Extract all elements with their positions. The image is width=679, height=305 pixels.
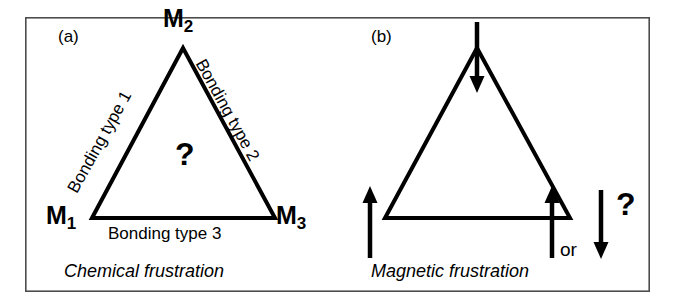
vertex-label-m1-main: M	[46, 201, 66, 229]
vertex-label-m3-sub: 3	[297, 214, 306, 233]
figure-frame	[26, 18, 649, 291]
panel-b-question-mark: ?	[616, 188, 636, 220]
vertex-label-m2-main: M	[163, 4, 183, 32]
panel-b-tag: (b)	[371, 28, 392, 45]
vertex-label-m1: M1	[46, 203, 75, 228]
panel-b-or-label: or	[560, 240, 577, 259]
vertex-label-m1-sub: 1	[67, 214, 76, 233]
panel-a-question-mark: ?	[175, 138, 195, 170]
vertex-label-m3-main: M	[276, 201, 296, 229]
panel-b-caption: Magnetic frustration	[371, 262, 529, 280]
frustration-figure: (a) M1 M2 M3 Bonding type 1 Bonding type…	[0, 0, 679, 305]
panel-a-caption: Chemical frustration	[64, 262, 224, 280]
vertex-label-m2-sub: 2	[184, 17, 193, 36]
panel-a-tag: (a)	[58, 28, 79, 45]
vertex-label-m3: M3	[276, 203, 305, 228]
bond-label-type-3: Bonding type 3	[108, 225, 221, 242]
vertex-label-m2: M2	[163, 6, 192, 31]
